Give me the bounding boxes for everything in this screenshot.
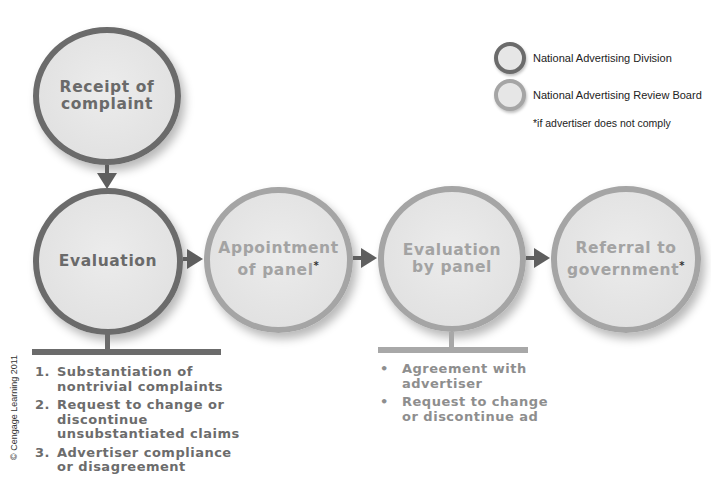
list-marker: 2. (35, 398, 57, 442)
footnote-asterisk: * (679, 260, 685, 271)
legend-item-narb: National Advertising Review Board (494, 79, 702, 111)
node-appointment-of-panel: Appointment of panel* (204, 187, 353, 333)
list-text: Agreement with advertiser (402, 362, 555, 391)
panel-outcomes-list: •Agreement with advertiser •Request to c… (380, 362, 555, 428)
legend-label-nad: National Advertising Division (533, 52, 672, 64)
legend-item-nad: National Advertising Division (494, 42, 672, 74)
node-receipt-of-complaint: Receipt of complaint (33, 27, 181, 165)
list-text: Substantiation of nontrivial complaints (57, 365, 250, 394)
list-text: Advertiser compliance or disagreement (57, 446, 250, 475)
node-label-text: of panel (238, 262, 314, 280)
panel-bracket-bar (378, 347, 528, 353)
bullet-icon: • (380, 362, 402, 391)
list-marker: 1. (35, 365, 57, 394)
node-referral-to-government: Referral to government* (551, 186, 701, 333)
copyright-notice: © Cengage Learning 2011 (9, 360, 19, 460)
arrow-right-icon (526, 256, 540, 260)
node-label-line: Evaluation (403, 242, 501, 259)
legend-label-narb: National Advertising Review Board (533, 89, 702, 101)
node-label-line: Appointment (218, 240, 338, 257)
node-label: Evaluation by panel (403, 242, 501, 276)
node-label-text: government (567, 261, 679, 279)
legend-swatch-narb (494, 79, 526, 111)
evaluation-bracket-stem (105, 333, 110, 349)
node-label-line: of panel* (218, 257, 338, 279)
list-item: •Request to change or discontinue ad (380, 395, 555, 424)
list-item: •Agreement with advertiser (380, 362, 555, 391)
node-label-line: Receipt of (60, 79, 155, 96)
node-label: Appointment of panel* (218, 240, 338, 279)
list-item: 1.Substantiation of nontrivial complaint… (35, 365, 250, 394)
node-label-line: Evaluation (59, 253, 157, 270)
list-text: Request to change or discontinue ad (402, 395, 555, 424)
node-evaluation: Evaluation (33, 188, 183, 335)
footnote-asterisk: * (314, 260, 320, 271)
panel-bracket-stem (449, 332, 454, 347)
list-item: 3.Advertiser compliance or disagreement (35, 446, 250, 475)
node-label-line: complaint (60, 96, 155, 113)
node-evaluation-by-panel: Evaluation by panel (378, 186, 526, 332)
arrow-right-icon (353, 256, 367, 260)
evaluation-steps-list: 1.Substantiation of nontrivial complaint… (35, 365, 250, 478)
node-label: Receipt of complaint (60, 79, 155, 113)
list-text: Request to change or discontinue unsubst… (57, 398, 250, 442)
list-item: 2.Request to change or discontinue unsub… (35, 398, 250, 442)
node-label: Referral to government* (567, 240, 685, 279)
bullet-icon: • (380, 395, 402, 424)
legend-swatch-nad (494, 42, 526, 74)
node-label-line: Referral to (567, 240, 685, 257)
arrow-down-icon (105, 165, 109, 179)
list-marker: 3. (35, 446, 57, 475)
evaluation-bracket-bar (32, 349, 221, 355)
node-label-line: by panel (403, 259, 501, 276)
arrow-right-icon (183, 257, 193, 261)
node-label-line: government* (567, 257, 685, 279)
node-label: Evaluation (59, 253, 157, 270)
legend-footnote: *if advertiser does not comply (533, 117, 671, 129)
